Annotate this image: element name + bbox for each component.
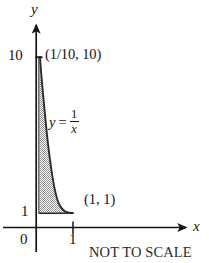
origin-label: 0 — [20, 232, 28, 247]
point-label-upper-endpoint: (1/10, 10) — [45, 47, 101, 62]
figure-container: y x 10 1 0 1 (1/10, 10) (1, 1) y = 1 x N… — [0, 0, 209, 263]
point-label-lower-endpoint: (1, 1) — [84, 192, 115, 207]
y-axis-label: y — [31, 2, 38, 17]
x-tick-label-1: 1 — [69, 232, 77, 247]
equation-left-side: y — [49, 115, 55, 130]
curve-equation-label: y = 1 x — [49, 108, 79, 136]
equation-equals-sign: = — [58, 115, 66, 130]
not-to-scale-caption: NOT TO SCALE — [89, 245, 192, 260]
y-tick-label-10: 10 — [8, 48, 23, 63]
graph-canvas — [0, 0, 209, 263]
x-axis-label: x — [193, 219, 200, 234]
y-tick-label-1: 1 — [21, 204, 29, 219]
equation-fraction: 1 x — [70, 108, 79, 136]
fraction-denominator: x — [70, 123, 78, 136]
fraction-numerator: 1 — [70, 108, 78, 121]
